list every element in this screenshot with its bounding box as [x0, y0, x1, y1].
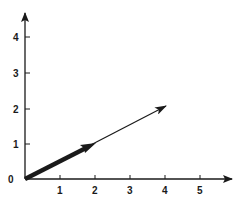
short-thick-vector [25, 143, 96, 179]
y-tick-label-1: 1 [13, 139, 19, 150]
y-axis-ticks [25, 37, 30, 144]
y-tick-label-3: 3 [13, 68, 19, 79]
x-tick-label-3: 3 [127, 185, 133, 196]
origin-label: 0 [8, 174, 14, 185]
y-tick-label-4: 4 [13, 32, 19, 43]
x-tick-label-4: 4 [162, 185, 168, 196]
vector-diagram: 0 1 2 3 4 5 1 2 3 4 [0, 0, 242, 207]
y-tick-label-2: 2 [13, 104, 19, 115]
x-tick-label-1: 1 [57, 185, 63, 196]
x-tick-label-2: 2 [92, 185, 98, 196]
x-tick-label-5: 5 [197, 185, 203, 196]
